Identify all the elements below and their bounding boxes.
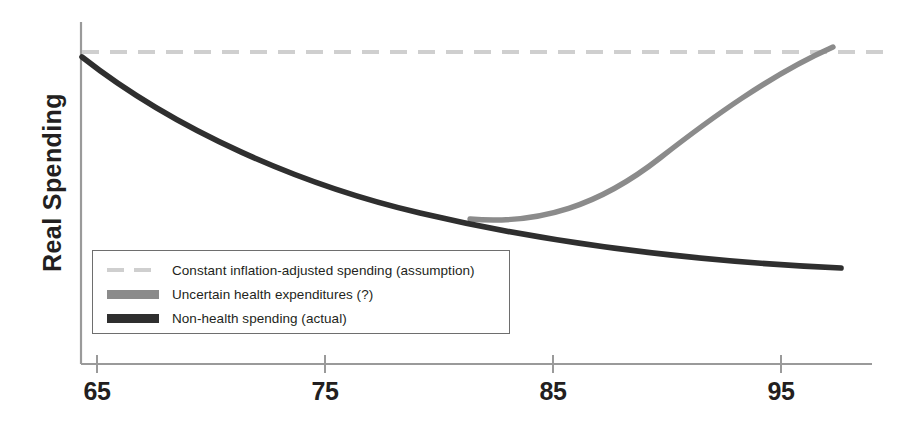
- legend-label: Uncertain health expenditures (?): [172, 287, 373, 302]
- x-tick-label-75: 75: [312, 377, 339, 406]
- chart-legend: Constant inflation-adjusted spending (as…: [92, 250, 510, 334]
- chart-container: Real Spending 65 75 85 95 Constant infla…: [0, 0, 903, 435]
- series-non-health-spending-curve: [82, 57, 841, 268]
- legend-label: Non-health spending (actual): [172, 311, 347, 326]
- dark-bar-swatch-icon: [107, 314, 159, 323]
- dashed-line-swatch-icon: [107, 268, 159, 272]
- plot-area: [0, 0, 903, 435]
- x-tick-label-95: 95: [768, 377, 795, 406]
- gray-bar-swatch-icon: [107, 290, 159, 299]
- legend-item-non-health-spending: Non-health spending (actual): [107, 306, 509, 330]
- x-tick-label-65: 65: [84, 377, 111, 406]
- x-tick-label-85: 85: [540, 377, 567, 406]
- legend-item-constant-inflation-adjusted: Constant inflation-adjusted spending (as…: [107, 258, 509, 282]
- legend-label: Constant inflation-adjusted spending (as…: [172, 263, 475, 278]
- legend-item-uncertain-health-expenditures: Uncertain health expenditures (?): [107, 282, 509, 306]
- series-uncertain-health-expenditures-curve: [470, 47, 833, 220]
